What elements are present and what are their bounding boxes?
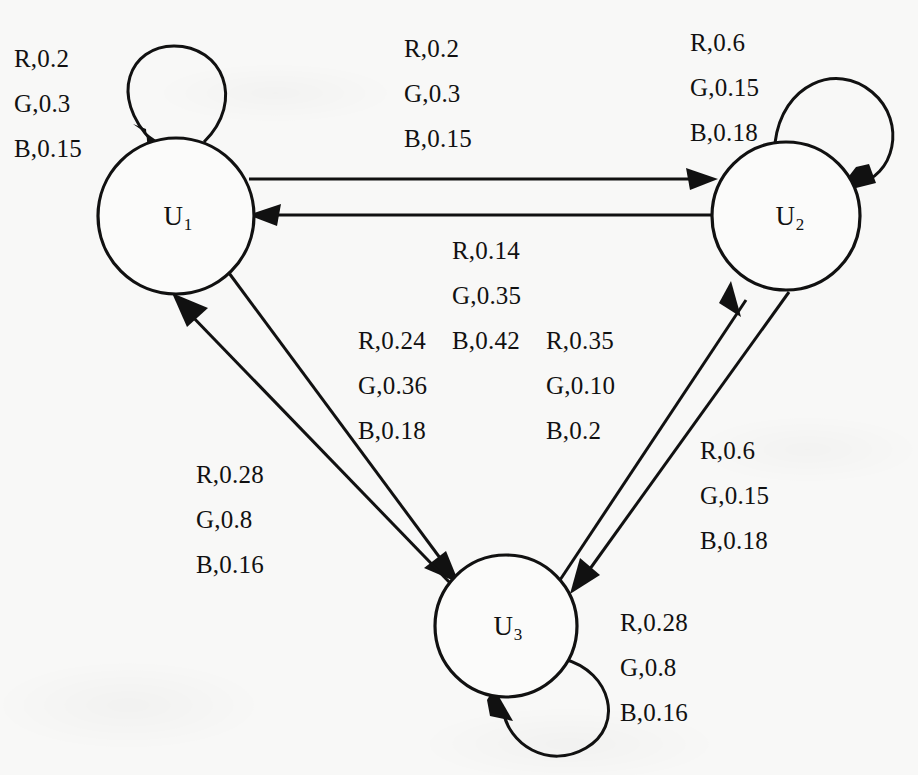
node-u1-label-sub: 1 — [183, 215, 192, 234]
state-transition-diagram: U1 U2 U3 R,0.2 G,0.3 B,0.15 R,0.2 G,0.3 … — [0, 0, 918, 775]
node-u3-label-text: U — [493, 611, 513, 641]
edge-label-line: B,0.18 — [700, 518, 769, 563]
edge-label-line: G,0.8 — [196, 497, 264, 542]
arrowhead-u3-to-u1 — [172, 293, 208, 327]
node-u1-label-text: U — [163, 201, 183, 231]
edge-label-line: R,0.14 — [452, 228, 521, 273]
edge-label-u2-to-u1: R,0.14 G,0.35 B,0.42 — [452, 228, 521, 363]
edge-label-line: R,0.28 — [196, 452, 264, 497]
edge-label-line: G,0.3 — [14, 81, 82, 126]
node-u3-label: U3 — [493, 611, 522, 645]
edge-label-line: R,0.28 — [620, 600, 688, 645]
node-u2-label: U2 — [775, 201, 804, 235]
edge-label-line: R,0.6 — [700, 428, 769, 473]
edge-label-line: G,0.3 — [404, 71, 472, 116]
edge-label-line: B,0.42 — [452, 318, 521, 363]
edge-label-line: R,0.24 — [358, 318, 427, 363]
node-u3-label-sub: 3 — [513, 625, 522, 644]
edge-label-line: B,0.16 — [196, 542, 264, 587]
edge-label-line: G,0.15 — [690, 65, 759, 110]
node-u1-label: U1 — [163, 201, 192, 235]
edge-u2-to-u1 — [248, 204, 712, 226]
edge-label-line: R,0.2 — [14, 36, 82, 81]
arrowhead-u1-to-u2 — [686, 168, 718, 190]
edge-label-u2-to-u3: R,0.6 G,0.15 B,0.18 — [700, 428, 769, 563]
arrowhead-u3-to-u2 — [719, 281, 741, 317]
edge-label-line: B,0.2 — [546, 408, 615, 453]
node-u2-label-sub: 2 — [795, 215, 804, 234]
edge-label-line: R,0.35 — [546, 318, 615, 363]
edge-label-line: B,0.18 — [358, 408, 427, 453]
edge-label-line: G,0.15 — [700, 473, 769, 518]
edge-label-u3-self: R,0.28 G,0.8 B,0.16 — [620, 600, 688, 735]
edge-label-u1-self: R,0.2 G,0.3 B,0.15 — [14, 36, 82, 171]
edge-label-u1-to-u3: R,0.24 G,0.36 B,0.18 — [358, 318, 427, 453]
edge-u1-self-loop — [128, 46, 226, 152]
edge-label-line: B,0.15 — [404, 116, 472, 161]
edge-label-line: B,0.15 — [14, 126, 82, 171]
edge-label-line: G,0.36 — [358, 363, 427, 408]
edge-label-line: G,0.10 — [546, 363, 615, 408]
edge-label-line: R,0.6 — [690, 20, 759, 65]
edge-label-line: B,0.16 — [620, 690, 688, 735]
edge-label-line: R,0.2 — [404, 26, 472, 71]
edge-label-line: B,0.18 — [690, 110, 759, 155]
edge-label-u3-to-u1: R,0.28 G,0.8 B,0.16 — [196, 452, 264, 587]
edge-label-u3-to-u2: R,0.35 G,0.10 B,0.2 — [546, 318, 615, 453]
node-u2-label-text: U — [775, 201, 795, 231]
edge-label-line: G,0.35 — [452, 273, 521, 318]
edge-label-u2-self: R,0.6 G,0.15 B,0.18 — [690, 20, 759, 155]
edge-label-u1-to-u2: R,0.2 G,0.3 B,0.15 — [404, 26, 472, 161]
edge-u1-to-u2 — [249, 168, 718, 190]
edge-label-line: G,0.8 — [620, 645, 688, 690]
